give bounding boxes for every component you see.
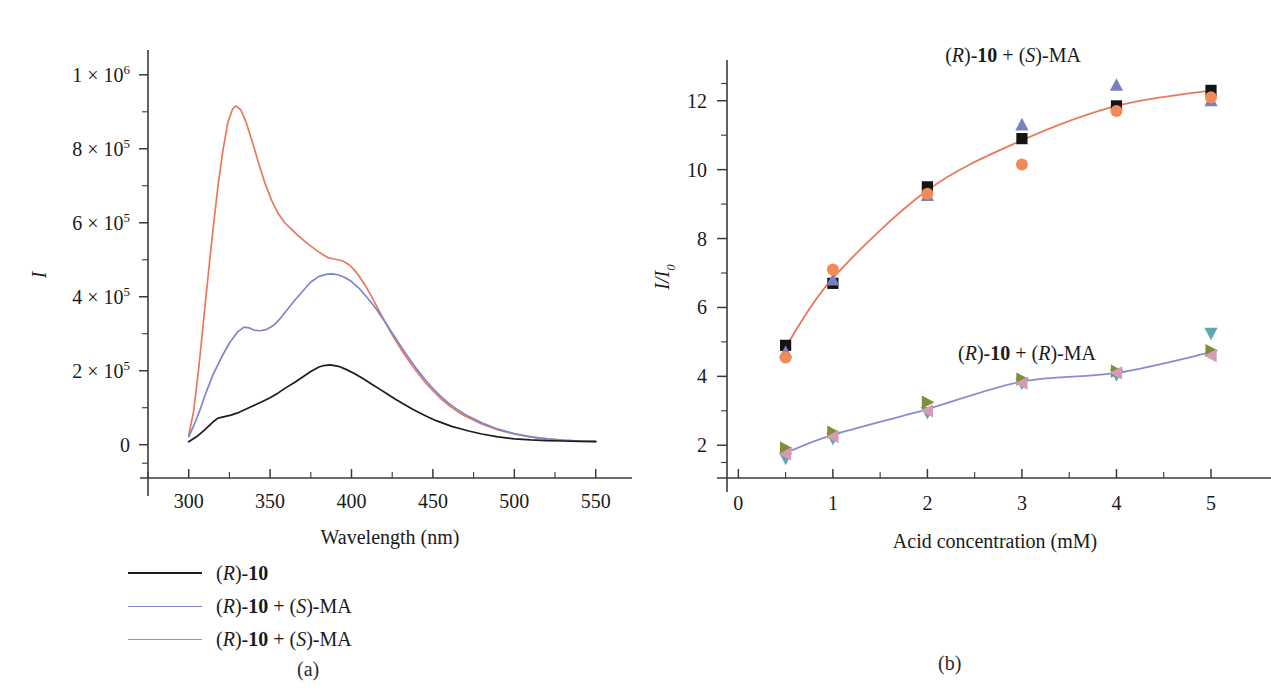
svg-text:2: 2 <box>697 434 707 456</box>
svg-text:1 × 106: 1 × 106 <box>72 62 130 86</box>
spectrum-chart: 30035040045050055002 × 1054 × 1056 × 105… <box>0 0 635 560</box>
svg-text:0: 0 <box>120 434 130 456</box>
svg-text:Acid concentration (mM): Acid concentration (mM) <box>893 530 1097 553</box>
svg-text:3: 3 <box>1017 492 1027 514</box>
svg-text:I/I0: I/I0 <box>651 264 678 291</box>
svg-text:Wavelength (nm): Wavelength (nm) <box>321 526 460 549</box>
figure-root: 30035040045050055002 × 1054 × 1056 × 105… <box>0 0 1271 693</box>
svg-text:4: 4 <box>1111 492 1121 514</box>
svg-text:500: 500 <box>499 490 529 512</box>
legend-item: (R)-10 + (S)-MA <box>128 628 352 650</box>
svg-text:6 × 105: 6 × 105 <box>72 210 130 234</box>
svg-text:450: 450 <box>418 490 448 512</box>
svg-text:2: 2 <box>922 492 932 514</box>
legend-item: (R)-10 + (S)-MA <box>128 595 352 617</box>
svg-text:5: 5 <box>1206 492 1216 514</box>
legend-item: (R)-10 <box>128 562 352 584</box>
svg-text:8 × 105: 8 × 105 <box>72 136 130 160</box>
svg-text:4: 4 <box>697 365 707 387</box>
marker-series <box>779 78 1218 358</box>
svg-text:(R)-10 + (S)-MA: (R)-10 + (S)-MA <box>945 44 1081 67</box>
marker-series <box>780 85 1217 351</box>
svg-text:12: 12 <box>687 90 707 112</box>
svg-text:300: 300 <box>174 490 204 512</box>
panel-b: 01234524681012I/I0Acid concentration (mM… <box>635 0 1271 693</box>
titration-chart: 01234524681012I/I0Acid concentration (mM… <box>635 0 1271 600</box>
panel-a: 30035040045050055002 × 1054 × 1056 × 105… <box>0 0 635 693</box>
svg-text:8: 8 <box>697 228 707 250</box>
svg-text:0: 0 <box>733 492 743 514</box>
legend-label: (R)-10 <box>216 562 268 585</box>
svg-text:550: 550 <box>581 490 611 512</box>
panel-caption-a: (a) <box>297 658 319 681</box>
legend-swatch-line <box>128 572 202 574</box>
legend-panel-a: (R)-10 (R)-10 + (S)-MA (R)-10 + (S)-MA <box>128 562 352 650</box>
marker-series <box>780 91 1217 363</box>
svg-text:10: 10 <box>687 159 707 181</box>
legend-label: (R)-10 + (S)-MA <box>216 595 352 618</box>
svg-text:(R)-10 + (R)-MA: (R)-10 + (R)-MA <box>958 342 1097 365</box>
svg-text:1: 1 <box>828 492 838 514</box>
svg-text:6: 6 <box>697 296 707 318</box>
legend-swatch-line <box>128 639 202 640</box>
svg-text:350: 350 <box>255 490 285 512</box>
svg-text:2 × 105: 2 × 105 <box>72 358 130 382</box>
legend-swatch-line <box>128 606 202 607</box>
svg-text:4 × 105: 4 × 105 <box>72 284 130 308</box>
panel-caption-b: (b) <box>938 652 961 675</box>
legend-label: (R)-10 + (S)-MA <box>216 628 352 651</box>
svg-text:400: 400 <box>337 490 367 512</box>
svg-text:I: I <box>28 270 50 279</box>
